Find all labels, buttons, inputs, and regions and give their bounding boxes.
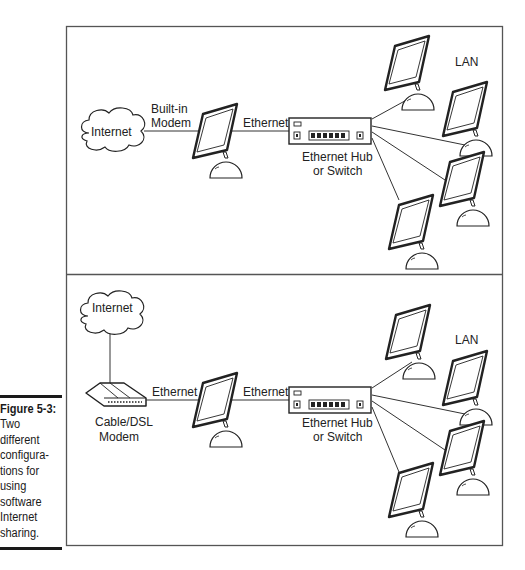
lan-computer-icon xyxy=(440,421,489,495)
host-computer-icon xyxy=(193,373,242,447)
cable-modem-icon xyxy=(86,383,146,406)
ethernet-label-2: Ethernet xyxy=(243,385,289,399)
hub-label-1: Ethernet Hub xyxy=(302,416,373,430)
hub-label-2: or Switch xyxy=(313,430,362,444)
lan-label: LAN xyxy=(455,333,478,347)
figure-frame xyxy=(67,27,503,546)
lan-computer-icon xyxy=(389,195,438,269)
lan-computer-icon xyxy=(443,82,492,156)
lan-computer-icon xyxy=(386,305,435,379)
panel-bottom: Internet Cable/DSL Modem Ethernet Ethern… xyxy=(81,291,493,537)
network-diagram: Internet Built-in Modem Ethernet Etherne… xyxy=(0,0,525,570)
internet-label: Internet xyxy=(91,125,132,139)
modem-label-2: Modem xyxy=(99,430,139,444)
builtin-modem-label-2: Modem xyxy=(151,116,191,130)
hub-label-1: Ethernet Hub xyxy=(302,150,373,164)
host-computer-icon xyxy=(193,104,242,178)
lan-computer-icon xyxy=(389,463,438,537)
panel-top: Internet Built-in Modem Ethernet Etherne… xyxy=(82,36,493,269)
ethernet-hub-icon xyxy=(289,387,371,413)
hub-label-2: or Switch xyxy=(313,164,362,178)
lan-computer-icon xyxy=(443,351,492,425)
internet-label: Internet xyxy=(92,301,133,315)
ethernet-label-1: Ethernet xyxy=(152,385,198,399)
modem-label-1: Cable/DSL xyxy=(95,415,153,429)
ethernet-label: Ethernet xyxy=(243,116,289,130)
lan-label: LAN xyxy=(455,55,478,69)
builtin-modem-label-1: Built-in xyxy=(151,102,188,116)
lan-computer-icon xyxy=(385,36,434,110)
ethernet-hub-icon xyxy=(289,118,371,144)
lan-computer-icon xyxy=(440,152,489,226)
